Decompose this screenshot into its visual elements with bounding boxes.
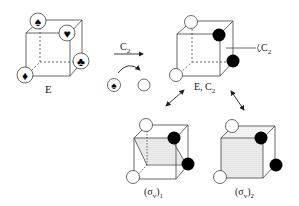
empty-vertex-icon: [214, 171, 227, 184]
label-c2-text: C: [120, 41, 127, 52]
label-c2-sub: 2: [127, 47, 131, 55]
cube-sigma-v2: [214, 120, 283, 184]
label-e-c2-sub: 2: [212, 87, 216, 95]
cube-e-c2: [177, 21, 233, 76]
sigma-v2-index: 2: [251, 192, 255, 200]
label-c2-operation: C2: [120, 42, 130, 55]
label-e-c2-text: E, C: [194, 81, 212, 92]
empty-circle-operation-icon: [138, 79, 150, 91]
empty-vertex-icon: [226, 120, 239, 133]
sigma-v1-text: (σ: [144, 186, 153, 197]
filled-vertex-icon: [227, 55, 240, 68]
label-sigma-v2: (σv)2: [235, 187, 254, 200]
symmetry-diagram: ♠ ♥ ♣ ♦ ♠: [0, 0, 299, 206]
label-e: E: [45, 84, 52, 95]
svg-text:♥: ♥: [63, 27, 70, 41]
empty-vertex-icon: [127, 171, 140, 184]
heart-vertex-icon: ♥: [59, 25, 75, 41]
c2-axis: [226, 44, 261, 52]
svg-text:♠: ♠: [111, 80, 117, 91]
filled-vertex-icon: [182, 158, 195, 171]
filled-vertex-icon: [270, 159, 283, 172]
cube-sigma-v1: [127, 119, 195, 184]
label-sigma-v1: (σv)1: [144, 187, 163, 200]
filled-vertex-icon: [213, 29, 226, 42]
axis-label-sub: 2: [268, 48, 272, 56]
svg-text:♠: ♠: [35, 15, 42, 29]
sigma-v2-text: (σ: [235, 186, 244, 197]
sigma-v1-index: 1: [160, 192, 164, 200]
axis-label-text: C: [261, 42, 268, 53]
svg-text:♣: ♣: [77, 55, 85, 69]
double-arrow-right: [231, 91, 244, 110]
empty-vertex-icon: [170, 69, 183, 82]
label-c2-axis: C2: [261, 43, 271, 56]
empty-vertex-icon: [185, 16, 198, 29]
filled-vertex-icon: [255, 132, 268, 145]
double-arrow-left: [166, 90, 184, 106]
svg-text:♦: ♦: [22, 69, 28, 83]
diamond-vertex-icon: ♦: [17, 67, 33, 83]
filled-vertex-icon: [168, 132, 181, 145]
empty-vertex-icon: [140, 119, 153, 132]
spade-vertex-icon: ♠: [30, 13, 46, 29]
curved-arrow-icon: [118, 66, 140, 73]
label-e-c2: E, C2: [194, 82, 215, 95]
club-vertex-icon: ♣: [73, 53, 89, 69]
spade-operation-icon: ♠: [108, 79, 121, 92]
